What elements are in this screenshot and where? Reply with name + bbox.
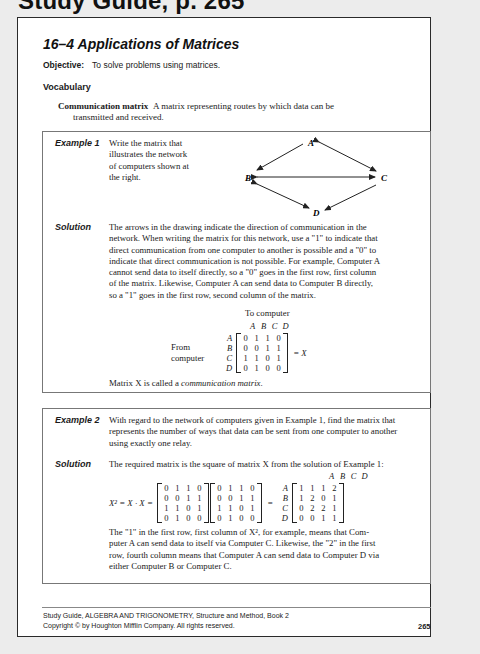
node-d: D (312, 208, 320, 218)
matrix-column-labels: ABCD (247, 321, 291, 331)
node-c: C (381, 173, 388, 183)
footer-divider (42, 607, 431, 608)
equals-sign: = (268, 498, 273, 508)
example-1-solution-label: Solution (55, 222, 91, 232)
prompt-line: represents the number of ways that data … (109, 426, 427, 437)
explanation-line: either Computer B or Computer C. (109, 561, 427, 572)
objective-text: To solve problems using matrices. (92, 60, 220, 70)
prompt-line: Write the matrix that (109, 138, 229, 149)
explanation-line: The "1" in the first row, first column o… (109, 527, 427, 538)
col-label: D (280, 321, 291, 331)
from-label: From (171, 342, 204, 353)
col-label: C (269, 321, 280, 331)
col-label: B (258, 321, 269, 331)
x2-column-labels: ABCD (326, 471, 370, 481)
objective-label: Objective: (43, 60, 84, 70)
solution-line: The arrows in the drawing indicate the d… (109, 222, 427, 233)
col-label: A (247, 321, 258, 331)
solution-line: cannot send data to itself directly, so … (109, 267, 427, 278)
vocabulary-term: Communication matrix (58, 101, 148, 111)
from-computer-label: From computer (171, 342, 204, 364)
vocabulary-entry: Communication matrix A matrix representi… (58, 101, 334, 111)
vocabulary-definition: A matrix representing routes by which da… (153, 101, 334, 111)
lesson-title: 16–4 Applications of Matrices (43, 36, 239, 52)
prompt-line: the right. (109, 172, 229, 183)
matrix-x-squared: 1112 1201 0221 0011 (292, 483, 344, 523)
example-1-prompt: Write the matrix that illustrates the ne… (109, 138, 229, 183)
communication-matrix-x: ABCD 0110 0011 1101 0100 = X (226, 333, 307, 373)
solution-line: so a "1" goes in the first row, second c… (109, 290, 427, 301)
equation-lhs: X² = X · X = (109, 498, 153, 508)
solution-line: direct communication from one computer t… (109, 245, 427, 256)
example-2-solution-label: Solution (55, 459, 91, 469)
matrix-x-values: 0110 0011 1101 0100 (236, 333, 288, 373)
network-diagram: A B C D (233, 132, 413, 222)
example-2-explanation: The "1" in the first row, first column o… (109, 527, 427, 572)
node-b: B (244, 173, 251, 183)
page-number: 265 (418, 622, 431, 631)
example-1-closing: Matrix X is called a communication matri… (109, 378, 263, 389)
x2-row-labels: ABCD (282, 483, 288, 523)
example-2-label: Example 2 (55, 415, 100, 425)
explanation-line: puter A can send data to itself via Comp… (109, 538, 427, 549)
prompt-line: of computers shown at (109, 161, 229, 172)
matrix-x-left: 0110 0011 1101 0100 (157, 483, 209, 523)
solution-line: of the matrix. Likewise, Computer A can … (109, 278, 427, 289)
example-2-solution-intro: The required matrix is the square of mat… (109, 459, 427, 470)
footer-copyright: Copyright © by Houghton Mifflin Company.… (43, 622, 235, 629)
example-2-prompt: With regard to the network of computers … (109, 415, 427, 449)
vocabulary-heading: Vocabulary (43, 82, 91, 92)
worksheet-page: 16–4 Applications of Matrices Objective:… (17, 17, 431, 637)
solution-line: indicate that direct communication is no… (109, 256, 427, 267)
solution-line: network. When writing the matrix for thi… (109, 233, 427, 244)
x-squared-equation: X² = X · X = 0110 0011 1101 0100 0110 00… (109, 483, 344, 523)
footer-book-title: Study Guide, ALGEBRA AND TRIGONOMETRY, S… (43, 612, 289, 619)
example-1-solution-text: The arrows in the drawing indicate the d… (109, 222, 427, 301)
example-2-box: Example 2 With regard to the network of … (42, 408, 431, 584)
prompt-line: With regard to the network of computers … (109, 415, 427, 426)
example-1-box: Example 1 Write the matrix that illustra… (42, 131, 431, 393)
objective: Objective:To solve problems using matric… (43, 60, 220, 70)
node-a: A (307, 138, 314, 148)
equals-x: = X (293, 348, 307, 358)
cut-off-page-heading: Study Guide, p. 265 (18, 0, 245, 15)
closing-term: communication matrix (181, 378, 260, 388)
matrix-row-labels: ABCD (226, 333, 232, 373)
from-label: computer (171, 353, 204, 364)
to-computer-label: To computer (245, 308, 290, 318)
example-1-label: Example 1 (55, 138, 100, 148)
prompt-line: using exactly one relay. (109, 438, 427, 449)
prompt-line: illustrates the network (109, 149, 229, 160)
explanation-line: row, fourth column means that Computer A… (109, 550, 427, 561)
matrix-x-right: 0110 0011 1101 0100 (210, 483, 262, 523)
vocabulary-definition-cont: transmitted and received. (73, 112, 164, 122)
